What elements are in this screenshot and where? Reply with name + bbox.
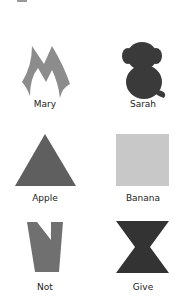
cropped-text-artifact	[17, 0, 27, 2]
monkey-icon	[122, 42, 170, 100]
hourglass-icon	[116, 221, 169, 273]
card-label: Sarah	[108, 99, 178, 109]
m-letter-icon	[20, 42, 72, 98]
card-label: Apple	[10, 193, 80, 203]
square-icon	[116, 134, 169, 186]
triangle-icon	[15, 134, 76, 186]
card-label: Mary	[10, 99, 80, 109]
card-label: Give	[108, 282, 178, 292]
card-label: Not	[10, 282, 80, 292]
notched-trapezoid-icon	[27, 222, 63, 272]
card-label: Banana	[108, 193, 178, 203]
